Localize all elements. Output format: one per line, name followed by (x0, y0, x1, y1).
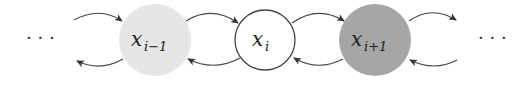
edge-right-to-next (410, 60, 457, 66)
node-x-prev: x i−1 (119, 4, 191, 76)
node-x-cur: x i (235, 10, 295, 70)
markov-chain-diagram: · · · · · · x i−1 x i x i+1 (0, 0, 528, 85)
right-ellipsis: · · · (478, 27, 507, 48)
edge-cur-to-next (292, 13, 344, 23)
edge-cur-to-prev (188, 58, 240, 65)
left-ellipsis: · · · (26, 27, 55, 48)
edge-next-to-right (409, 13, 456, 21)
node-x-next: x i+1 (339, 4, 411, 76)
node-x-prev-sub: i−1 (144, 39, 167, 54)
node-x-cur-base: x (252, 27, 263, 51)
node-x-prev-base: x (131, 27, 142, 51)
node-x-next-sub: i+1 (364, 39, 387, 54)
edge-left-to-prev (74, 13, 122, 21)
node-x-cur-sub: i (265, 39, 269, 54)
edge-prev-to-left (77, 59, 123, 66)
edge-prev-to-cur (186, 13, 238, 23)
edge-next-to-cur (294, 58, 343, 65)
node-x-next-base: x (351, 27, 362, 51)
